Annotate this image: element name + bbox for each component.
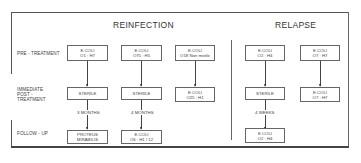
interval-label: 4 MONTHS [130,110,155,115]
box-line: O2 : H4 [258,136,273,141]
box-line: O25 : H1 [186,95,203,100]
follow-up-box: E.COLI O2 : H4 [245,128,285,143]
pre-treatment-box: E.COLI O2 : H4 [245,45,285,61]
box-line: O6 : H1 / 12 [130,137,153,142]
connector-line [265,61,266,86]
connector-line [320,61,321,86]
pre-treatment-box: E.COLI O1 : H7 [67,45,108,61]
connector-line [141,61,142,86]
follow-up-box: PROTEUS MIRABILIS [67,130,108,144]
post-treatment-box: E.COLI O25 : H1 [175,87,215,102]
pre-treatment-box: E.COLI O75 : H5 [121,45,162,61]
box-line: O7 : H7 [313,95,328,100]
box-line: O75 : H5 [133,53,150,58]
row-label-immediate-post-treatment: IMMEDIATE POST - TREATMENT [17,87,46,102]
box-line: STERILE [256,91,274,96]
frame-left-border [11,120,12,148]
follow-up-box: E.COLI O6 : H1 / 12 [121,130,162,144]
post-treatment-box: E.COLI O7 : H7 [300,87,340,102]
pre-treatment-box: E.COLI O7 : H7 [300,45,340,61]
post-treatment-box: STERILE [67,87,108,100]
box-line: O7 : H7 [313,53,328,58]
connector-line [195,61,196,86]
box-line: O1 : H7 [80,53,95,58]
post-treatment-box: STERILE [121,87,162,100]
relapse-heading: RELAPSE [275,20,316,30]
section-divider [231,40,232,140]
frame-bottom-border [11,146,349,148]
box-line: STERILE [133,91,151,96]
box-line: STERILE [79,91,97,96]
frame-right-border [348,12,349,147]
frame-left-border [11,12,12,74]
box-line: MIRABILIS [77,137,98,142]
pre-treatment-box: E.COLI O18 Non motile [175,45,215,61]
row-label-pre-treatment: PRE - TREATMENT [17,51,60,56]
box-line: O2 : H4 [258,53,273,58]
post-treatment-box: STERILE [245,87,285,100]
reinfection-heading: REINFECTION [113,20,174,30]
frame-top-border [11,12,348,13]
connector-line [87,61,88,86]
box-line: O18 Non motile [180,53,210,58]
row-label-line: TREATMENT [17,97,46,102]
row-label-follow-up: FOLLOW - UP [17,131,48,136]
interval-label: 3 MONTHS [76,110,101,115]
interval-label: 4 WEEKS [254,110,276,115]
